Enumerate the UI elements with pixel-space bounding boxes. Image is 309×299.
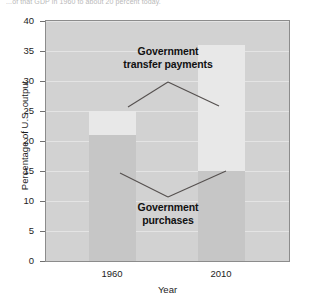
annotation-transfer-payments: Government transfer payments — [88, 45, 248, 70]
annotation-transfer-line2: transfer payments — [88, 58, 248, 71]
y-tick-label-40: 40 — [0, 16, 34, 26]
y-tick-mark — [40, 51, 45, 52]
annotation-government-purchases: Government purchases — [88, 201, 248, 226]
y-tick-mark — [40, 261, 45, 262]
y-tick-mark — [40, 201, 45, 202]
leader-transfer-right — [168, 82, 219, 106]
y-axis-label: Percentage of U.S. output — [19, 46, 30, 226]
leader-transfer-left — [128, 82, 168, 107]
y-tick-label-5: 5 — [0, 226, 34, 236]
y-tick-mark — [40, 81, 45, 82]
x-axis-label: Year — [45, 284, 290, 295]
annotation-transfer-line1: Government — [88, 45, 248, 58]
figure-government-spending: Government transfer payments Government … — [0, 0, 309, 299]
y-tick-label-0: 0 — [0, 256, 34, 266]
leader-purchase-left — [120, 173, 168, 197]
y-tick-mark — [40, 21, 45, 22]
x-tick-label-2010: 2010 — [191, 268, 251, 279]
plot-area: Government transfer payments Government … — [45, 20, 290, 262]
y-tick-mark — [40, 171, 45, 172]
annotation-purchase-line2: purchases — [88, 214, 248, 227]
y-tick-mark — [40, 141, 45, 142]
y-tick-mark — [40, 231, 45, 232]
leader-purchase-right — [168, 171, 226, 197]
y-tick-mark — [40, 111, 45, 112]
x-tick-label-1960: 1960 — [82, 268, 142, 279]
annotation-purchase-line1: Government — [88, 201, 248, 214]
